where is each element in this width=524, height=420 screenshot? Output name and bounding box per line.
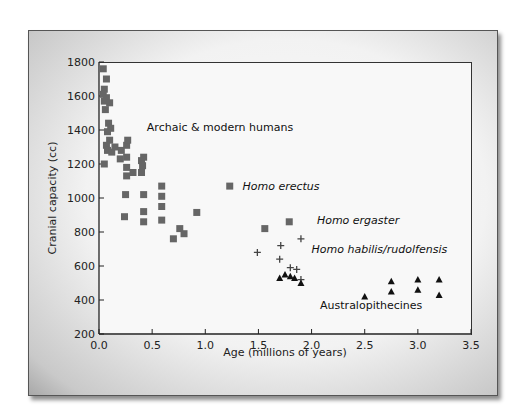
x-tick-label: 2.5 (356, 339, 374, 352)
square-marker (139, 162, 146, 169)
triangle-marker (414, 286, 421, 293)
annotations: Archaic & modern humansHomo erectusHomo … (147, 121, 448, 313)
series-homo-erectus (226, 183, 233, 190)
square-marker (101, 161, 108, 168)
square-marker (261, 225, 268, 232)
y-tick-label: 1400 (67, 124, 95, 137)
y-tick-label: 1600 (67, 90, 95, 103)
annotation-label: Archaic & modern humans (147, 121, 294, 134)
annotation-label: Australopithecines (320, 299, 423, 312)
square-marker (138, 169, 145, 176)
square-marker (117, 155, 124, 162)
square-marker (103, 76, 110, 83)
x-axis-title: Age (millions of years) (223, 346, 347, 359)
plus-marker (297, 235, 304, 242)
square-marker (226, 183, 233, 190)
square-marker (121, 213, 128, 220)
annotation-label: Homo erectus (242, 180, 319, 193)
triangle-marker (436, 291, 443, 298)
y-tick-label: 600 (74, 260, 95, 273)
square-marker (158, 203, 165, 210)
square-marker (158, 183, 165, 190)
y-tick-label: 1200 (67, 158, 95, 171)
square-marker (286, 218, 293, 225)
plus-marker (254, 249, 261, 256)
scatter-chart: 200400600800100012001400160018000.00.51.… (0, 0, 524, 420)
triangle-marker (388, 278, 395, 285)
triangle-marker (388, 288, 395, 295)
square-marker (123, 154, 130, 161)
square-marker (181, 230, 188, 237)
plus-marker (276, 256, 283, 263)
plus-marker (293, 266, 300, 273)
y-tick-label: 1000 (67, 192, 95, 205)
square-marker (123, 164, 130, 171)
square-marker (106, 99, 113, 106)
y-tick-label: 800 (74, 226, 95, 239)
square-marker (111, 144, 118, 151)
square-marker (104, 128, 111, 135)
square-marker (140, 218, 147, 225)
annotation-label: Homo ergaster (317, 214, 401, 227)
series-australopithecines (276, 271, 442, 300)
triangle-marker (282, 271, 289, 278)
square-marker (124, 137, 131, 144)
square-marker (140, 208, 147, 215)
series-archaic-modern-humans (100, 65, 201, 242)
plus-marker (277, 242, 284, 249)
triangle-marker (414, 276, 421, 283)
y-tick-label: 1800 (67, 56, 95, 69)
series-homo-ergaster (261, 218, 292, 232)
annotation-label: Homo habilis/rudolfensis (312, 243, 448, 256)
x-tick-label: 3.5 (462, 339, 480, 352)
square-marker (130, 169, 137, 176)
x-tick-label: 0.5 (143, 339, 161, 352)
triangle-marker (297, 280, 304, 287)
square-marker (140, 154, 147, 161)
square-marker (123, 172, 130, 179)
square-marker (122, 191, 129, 198)
y-axis-title: Cranial capacity (cc) (46, 142, 59, 255)
y-tick-label: 400 (74, 294, 95, 307)
triangle-marker (276, 274, 283, 281)
square-marker (193, 209, 200, 216)
x-tick-label: 0.0 (90, 339, 108, 352)
triangle-marker (436, 276, 443, 283)
x-tick-label: 3.0 (409, 339, 427, 352)
square-marker (100, 65, 107, 72)
square-marker (140, 191, 147, 198)
square-marker (158, 217, 165, 224)
square-marker (170, 235, 177, 242)
square-marker (158, 193, 165, 200)
plus-marker (287, 264, 294, 271)
square-marker (102, 106, 109, 113)
x-tick-label: 1.0 (197, 339, 215, 352)
